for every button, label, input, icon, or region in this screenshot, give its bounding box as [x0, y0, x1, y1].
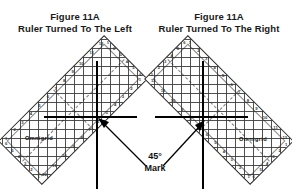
scale-number: 5	[132, 67, 134, 71]
scale-number: 10	[170, 99, 175, 104]
scale-number: 7	[197, 125, 199, 130]
scale-number: 4	[114, 103, 116, 108]
mark-degree-text: 45°	[124, 151, 186, 163]
scale-number: 9	[181, 108, 183, 113]
scale-number: 5	[214, 141, 216, 146]
scale-number: 2	[239, 166, 241, 171]
scale-number: 5	[177, 47, 179, 51]
scale-number: 1	[37, 175, 39, 179]
ruler-brand-label-right: Omnigrid	[239, 135, 267, 141]
scale-number: 8	[81, 137, 83, 142]
mark-word-text: Mark	[124, 163, 186, 175]
scale-number: 7	[89, 128, 91, 133]
scale-number: 3	[164, 60, 166, 64]
scale-number: 6	[253, 175, 255, 179]
scale-number: 11	[161, 89, 165, 94]
scale-number: 5	[222, 74, 224, 79]
scale-number: 2	[113, 47, 115, 51]
scale-number: 4	[214, 66, 216, 71]
scale-number: 1	[106, 41, 108, 45]
scale-number: 6	[139, 73, 141, 77]
scale-number: 3	[24, 162, 26, 166]
scale-number: 2	[13, 128, 15, 133]
scale-number: 1	[139, 79, 141, 84]
scale-number: 10	[263, 116, 268, 121]
scale-number: 6	[205, 133, 207, 138]
scale-number: 4	[18, 155, 20, 159]
scale-number: 12	[99, 42, 104, 47]
scale-number: 12	[283, 136, 288, 141]
scale-number: 3	[230, 158, 232, 163]
crosshair-vertical-line	[202, 61, 204, 189]
scale-number: 4	[126, 60, 128, 64]
scale-number: 2	[197, 49, 199, 54]
caption-left: Figure 11A Ruler Turned To The Left	[4, 11, 146, 35]
ruler-brand-label-left: Omnigrid	[25, 135, 53, 141]
scale-number: 4	[170, 54, 172, 58]
scale-number: 3	[119, 54, 121, 58]
scale-number: 3	[205, 57, 207, 62]
scale-number: 7	[55, 87, 57, 92]
scale-number: 7	[238, 91, 240, 96]
scale-number: 6	[230, 82, 232, 87]
scale-number: 9	[71, 70, 73, 75]
forty-five-degree-mark-label: 45° Mark	[124, 151, 186, 174]
scale-number: 5	[11, 149, 13, 153]
scale-number: 8	[247, 99, 249, 104]
scale-number: 9	[255, 107, 257, 112]
scale-number: 1	[285, 142, 287, 146]
scale-number: 3	[272, 155, 274, 159]
scale-number: 1	[151, 73, 153, 77]
scale-number: 4	[30, 112, 32, 117]
scale-number: 3	[22, 120, 24, 125]
scale-number: 12	[42, 174, 47, 179]
caption-left-title: Figure 11A	[4, 11, 146, 23]
scale-number: 8	[63, 79, 65, 84]
scale-number: 1	[189, 41, 191, 46]
scale-number: 2	[130, 87, 132, 92]
caption-right: Figure 11A Ruler Turned To The Right	[148, 11, 290, 35]
crosshair-horizontal-line	[44, 116, 137, 118]
scale-number: 5	[38, 104, 40, 109]
scale-number: 2	[278, 149, 280, 153]
scale-number: 6	[46, 95, 48, 100]
scale-number: 11	[273, 126, 277, 131]
scale-number: 6	[5, 142, 7, 146]
scale-number: 5	[259, 168, 261, 172]
scale-number: 10	[62, 154, 67, 159]
caption-right-subtitle: Ruler Turned To The Right	[148, 23, 290, 35]
scale-number: 9	[72, 145, 74, 150]
scale-number: 2	[31, 168, 33, 172]
scale-number: 4	[265, 162, 267, 166]
scale-number: 2	[157, 67, 159, 71]
caption-left-subtitle: Ruler Turned To The Left	[4, 23, 146, 35]
scale-number: 3	[122, 95, 124, 100]
scale-number: 4	[222, 150, 224, 155]
scale-number: 10	[79, 61, 84, 66]
crosshair-vertical-line	[96, 61, 98, 189]
caption-right-title: Figure 11A	[148, 11, 290, 23]
figure-canvas: Figure 11A Ruler Turned To The Left Figu…	[0, 0, 292, 189]
scale-number: 11	[52, 164, 56, 169]
scale-number: 6	[183, 41, 185, 45]
scale-number: 11	[89, 52, 93, 57]
scale-number: 12	[151, 79, 156, 84]
